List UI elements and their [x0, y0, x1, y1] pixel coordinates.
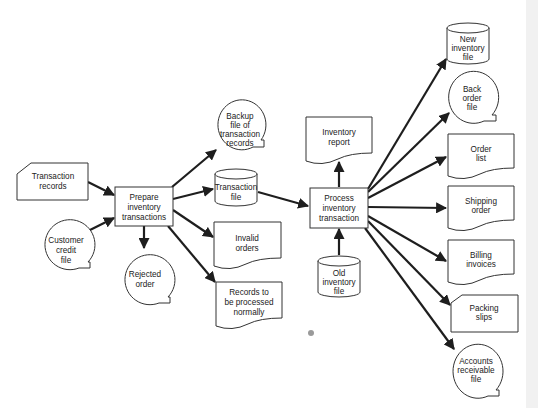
edge-transaction-file-to-process [258, 192, 308, 206]
edge-prepare-to-invalid [173, 210, 213, 237]
page-edge-strip [526, 0, 538, 408]
node-billing-invoices: Billinginvoices [448, 240, 514, 285]
edge-process-to-accounts [365, 228, 454, 349]
node-prepare-inventory-transactions: Prepareinventorytransactions [115, 187, 173, 226]
node-old-inventory-file: Oldinventoryfile [318, 256, 360, 297]
edge-prepare-to-backup [172, 150, 216, 187]
node-inventory-report: Inventoryreport [306, 117, 372, 164]
node-records-to-be-processed: Records tobe processednormally [216, 282, 282, 329]
node-customer-credit-file: Customercreditfile [45, 220, 95, 270]
node-rejected-order: Rejectedorder [125, 255, 175, 305]
node-back-order-file: Backorderfile [449, 71, 499, 123]
edge-process-to-billing [368, 216, 446, 261]
node-label: Billinginvoices [466, 251, 496, 269]
edge-process-to-new-file [368, 59, 446, 189]
node-transaction-file: Transactionfile [215, 169, 258, 206]
node-label: Processinventorytransaction [319, 194, 359, 223]
edge-process-to-packing [368, 221, 450, 305]
node-transaction-records: Transactionrecords [17, 163, 88, 200]
node-process-inventory-transaction: Processinventorytransaction [310, 188, 368, 228]
node-new-inventory-file: Newinventoryfile [447, 23, 489, 64]
node-order-list: Orderlist [448, 134, 514, 179]
node-backup-file: Backupfile oftransactionrecords [218, 100, 266, 150]
edge-prepare-to-transaction-file [173, 189, 213, 199]
edge-process-to-shipping [368, 207, 446, 208]
node-shipping-order: Shippingorder [448, 186, 514, 231]
node-invalid-orders: Invalidorders [214, 222, 281, 269]
node-accounts-receivable-file: Accountsreceivablefile [453, 344, 503, 398]
node-packing-slips: Packingslips [451, 295, 518, 332]
inventory-flowchart: Transactionrecords Customercreditfile Pr… [0, 0, 538, 408]
edge-transaction-records-to-prepare [88, 182, 114, 195]
scan-artifact [308, 330, 314, 336]
node-label: Invalidorders [235, 234, 259, 253]
edge-process-to-back-order [368, 113, 449, 192]
edge-process-to-order-list [368, 157, 446, 198]
